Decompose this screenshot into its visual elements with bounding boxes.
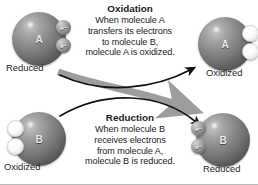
oxidation-heading: Oxidation <box>62 3 198 14</box>
oxidation-line-1: When molecule A <box>62 15 198 26</box>
caption-molecule-a-reduced: Reduced <box>6 62 44 73</box>
redox-diagram: Oxidation When molecule A transfers its … <box>0 0 258 185</box>
electron-icon: e− <box>56 20 71 35</box>
empty-electron-slot-icon <box>242 43 258 60</box>
caption-molecule-b-oxidized: Oxidized <box>4 161 40 172</box>
oxidation-line-4: molecule A is oxidized. <box>62 47 198 58</box>
caption-molecule-b-reduced: Reduced <box>203 163 241 174</box>
reduction-text-block: Reduction When molecule B receives elect… <box>60 112 200 167</box>
reduction-line-4: molecule B is reduced. <box>60 156 200 167</box>
electron-icon: e− <box>56 38 71 53</box>
molecule-letter: A <box>198 17 252 71</box>
molecule-sphere: B <box>196 113 250 167</box>
caption-molecule-a-oxidized: Oxidized <box>206 67 242 78</box>
empty-electron-slot-icon <box>7 120 24 137</box>
reduction-line-1: When molecule B <box>60 124 200 135</box>
reduction-heading: Reduction <box>60 112 200 123</box>
electron-icon: e− <box>191 139 206 154</box>
molecule-letter: B <box>196 113 250 167</box>
oxidation-line-2: transfers its electrons <box>62 26 198 37</box>
molecule-sphere: A <box>198 17 252 71</box>
empty-electron-slot-icon <box>7 138 24 155</box>
reduction-line-3: from molecule A, <box>60 146 200 157</box>
empty-electron-slot-icon <box>242 25 258 42</box>
oxidation-line-3: to molecule B, <box>62 37 198 48</box>
electron-icon: e− <box>191 121 206 136</box>
oxidation-text-block: Oxidation When molecule A transfers its … <box>62 3 198 58</box>
reduction-line-2: receives electrons <box>60 135 200 146</box>
